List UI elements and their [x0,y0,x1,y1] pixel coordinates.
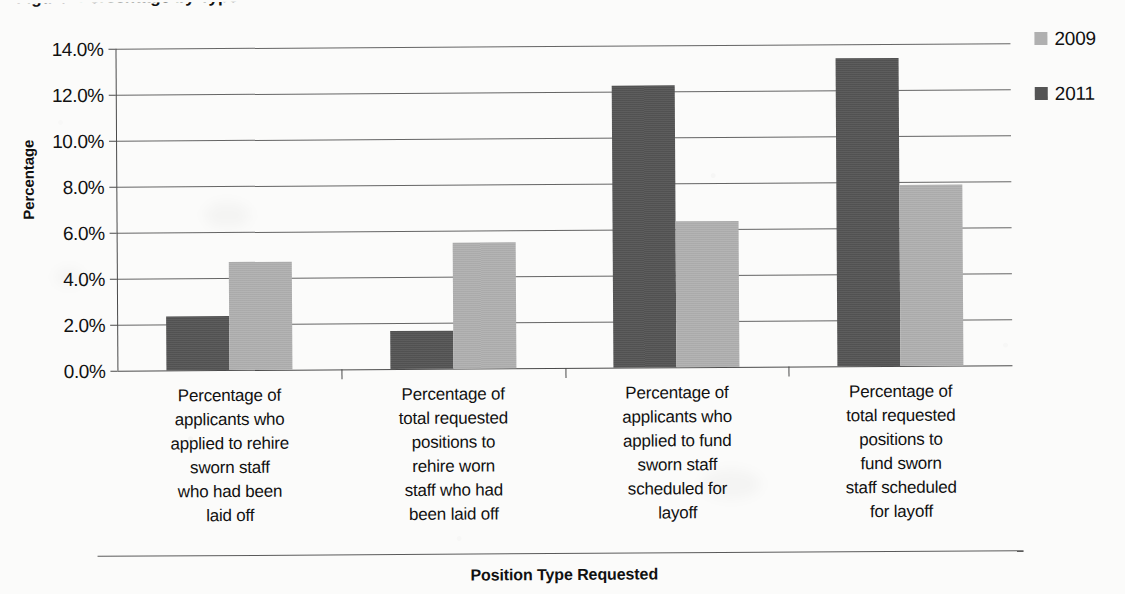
category-label-line: applicants who [118,407,342,432]
category-label-line: Percentage of [565,381,789,406]
x-axis-title: Position Type Requested [2,563,1125,588]
x-axis-category-labels: Percentage ofapplicants whoapplied to re… [118,379,1014,544]
plot-area [115,43,1012,370]
category-label-line: staff scheduled [789,475,1013,500]
category-label-line: applied to rehire [118,431,342,456]
category-label-line: sworn staff [565,453,789,478]
category-label-line: laid off [118,503,342,528]
category-label-line: who had been [118,479,342,504]
y-tick-mark [109,95,116,96]
page-title-cropped: Figure: Percentage by Type [0,0,558,16]
bar-2011-3[interactable] [612,86,677,368]
category-label-line: rehire worn [342,454,566,479]
bar-group [563,45,789,368]
category-label-line: fund sworn [789,451,1013,476]
category-label-line: positions to [342,430,566,455]
category-label-line: applied to fund [565,429,789,454]
category-label-line: Percentage of [118,383,342,408]
legend-item-label: 2009 [1054,28,1096,47]
category-label-4: Percentage oftotal requestedpositions to… [789,379,1014,524]
legend-item-2011[interactable]: 2011 [1035,82,1121,105]
bar-2009-3[interactable] [676,221,740,367]
bar-2009-1[interactable] [229,262,293,370]
y-tick-label: 4.0% [25,270,105,289]
bottom-rule [98,550,1024,557]
scanned-chart-page: Figure: Percentage by Type Percentage 14… [0,0,1125,594]
category-label-line: applicants who [565,405,789,430]
y-tick-mark [109,187,116,188]
category-label-line: sworn staff [118,455,342,480]
chart-legend: 20092011 [1034,27,1121,138]
category-label-line: total requested [341,406,565,431]
category-label-line: for layoff [789,499,1013,524]
bar-series-group [115,43,1012,370]
category-label-line: been laid off [342,502,566,527]
y-tick-mark [108,49,115,50]
y-tick-label: 12.0% [24,86,104,105]
y-tick-mark [109,141,116,142]
y-tick-mark [110,371,117,372]
category-label-line: layoff [566,501,790,526]
category-label-line: scheduled for [566,477,790,502]
y-tick-label: 2.0% [25,316,105,335]
y-tick-label: 8.0% [24,178,104,197]
category-label-line: Percentage of [341,382,565,407]
category-label-3: Percentage ofapplicants whoapplied to fu… [565,381,790,526]
category-label-2: Percentage oftotal requestedpositions to… [341,382,566,527]
y-tick-mark [110,325,117,326]
y-tick-label: 10.0% [24,132,104,151]
y-tick-mark [110,279,117,280]
bar-2009-4[interactable] [899,185,963,366]
category-tick [565,368,566,378]
bar-group [339,46,565,369]
category-label-1: Percentage ofapplicants whoapplied to re… [118,383,343,528]
y-tick-label: 6.0% [25,224,105,243]
bar-2011-4[interactable] [836,58,901,367]
category-label-line: Percentage of [789,379,1013,404]
bar-group [787,43,1013,366]
y-tick-mark [110,233,117,234]
bar-group [115,47,341,370]
category-tick [789,367,790,377]
category-label-line: positions to [789,427,1013,452]
category-label-line: total requested [789,403,1013,428]
bar-2011-1[interactable] [166,316,229,370]
category-tick [341,369,342,379]
bar-2011-2[interactable] [390,331,453,369]
bar-2009-2[interactable] [452,242,516,369]
y-tick-label: 14.0% [23,40,103,59]
legend-swatch-icon [1035,87,1048,100]
legend-item-label: 2011 [1055,83,1095,102]
legend-item-2009[interactable]: 2009 [1034,27,1120,50]
category-label-line: staff who had [342,478,566,503]
page-title: Figure: Percentage by Type [16,0,238,8]
y-tick-label: 0.0% [25,362,105,381]
legend-swatch-icon [1034,32,1047,45]
